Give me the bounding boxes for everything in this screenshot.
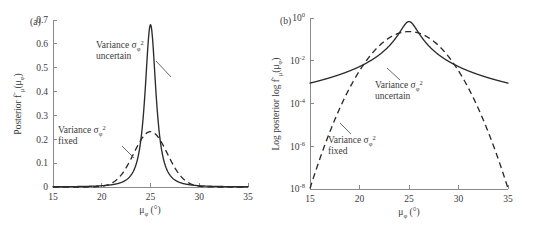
x-tick-label: 35 xyxy=(503,194,513,204)
curve-variance-uncertain xyxy=(310,22,508,84)
x-tick-label: 30 xyxy=(195,192,205,202)
x-tick-label: 15 xyxy=(48,192,58,202)
curve-variance-fixed xyxy=(310,32,508,189)
x-tick-label: 35 xyxy=(243,192,253,202)
panel-a-plot: 00.10.20.30.40.50.60.7 1520253035 xyxy=(0,0,267,231)
curve-variance-fixed xyxy=(53,132,248,187)
panel-b-annotations xyxy=(340,68,400,134)
panel-b-curves xyxy=(310,22,508,189)
figure-container: 00.10.20.30.40.50.60.7 1520253035 (a) Va… xyxy=(0,0,534,231)
panel-a: 00.10.20.30.40.50.60.7 1520253035 (a) Va… xyxy=(0,0,267,231)
panel-b: 10010-210-410-610-8 1520253035 (b) Varia… xyxy=(267,0,534,231)
x-tick-label: 25 xyxy=(404,194,414,204)
y-tick-label: 0.7 xyxy=(36,15,48,25)
y-tick-label: 0.5 xyxy=(36,63,48,73)
y-tick-label: 10-6 xyxy=(290,140,306,152)
panel-b-x-ticks: 1520253035 xyxy=(305,185,513,204)
y-tick-label: 0 xyxy=(43,182,48,192)
panel-b-plot: 10010-210-410-610-8 1520253035 xyxy=(267,0,534,231)
panel-a-y-ticks: 00.10.20.30.40.50.60.7 xyxy=(36,15,57,192)
x-tick-label: 30 xyxy=(454,194,464,204)
panel-a-axes xyxy=(53,20,248,187)
y-tick-label: 0.6 xyxy=(36,39,48,49)
x-tick-label: 25 xyxy=(146,192,156,202)
y-tick-label: 0.4 xyxy=(36,87,48,97)
y-tick-label: 0.2 xyxy=(36,135,48,145)
y-tick-label: 10-2 xyxy=(290,54,305,66)
y-tick-label: 10-4 xyxy=(290,97,306,109)
x-tick-label: 20 xyxy=(355,194,365,204)
x-tick-label: 20 xyxy=(97,192,107,202)
panel-b-axes xyxy=(310,18,508,189)
y-tick-label: 10-8 xyxy=(290,182,305,194)
y-tick-label: 0.3 xyxy=(36,111,48,121)
y-tick-label: 0.1 xyxy=(36,158,48,168)
panel-a-curves xyxy=(53,25,248,187)
y-tick-label: 100 xyxy=(292,11,305,23)
curve-variance-uncertain xyxy=(53,25,248,187)
x-tick-label: 15 xyxy=(305,194,315,204)
